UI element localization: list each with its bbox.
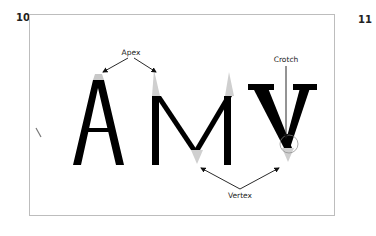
vertex-label: Vertex xyxy=(228,191,253,200)
crotch-label: Crotch xyxy=(274,55,299,64)
letter-v xyxy=(248,84,317,162)
letterform-anatomy-diagram: Apex Crotch Vertex xyxy=(0,0,376,236)
vertex-arrow-left xyxy=(201,168,240,189)
stray-mark xyxy=(36,128,41,137)
letter-m xyxy=(152,70,234,165)
apex-arrow-left xyxy=(103,58,128,72)
vertex-arrow-right xyxy=(240,168,279,189)
apex-label: Apex xyxy=(122,48,141,57)
apex-arrow-right xyxy=(134,58,156,72)
letter-a xyxy=(73,74,124,165)
